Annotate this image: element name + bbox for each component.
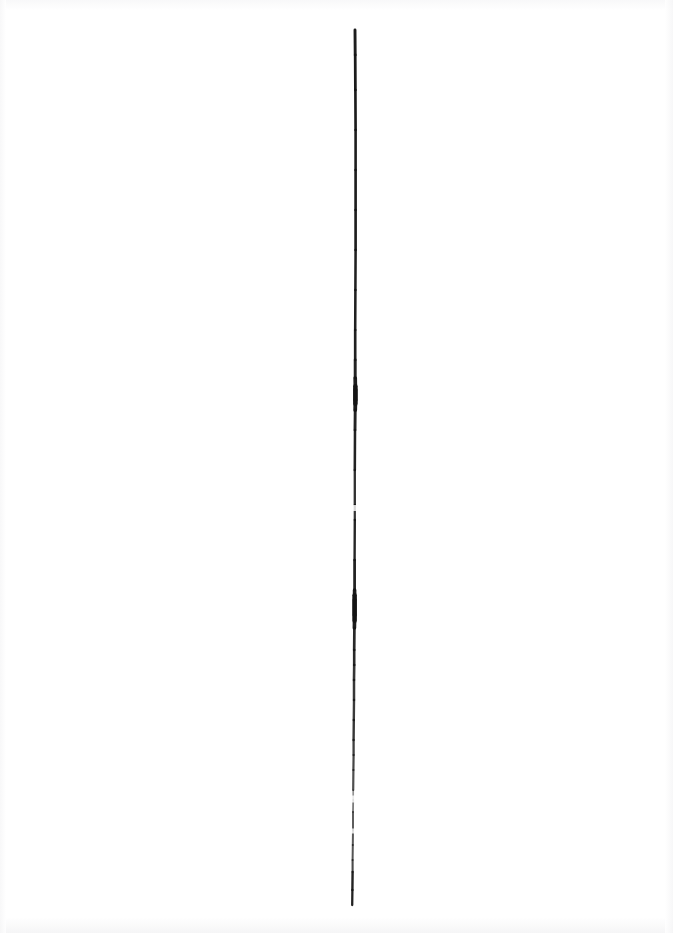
vertical-ink-stroke xyxy=(0,0,673,933)
break-low xyxy=(350,796,356,803)
blob-lower xyxy=(352,593,356,623)
break-mid xyxy=(352,505,358,511)
ink-layer xyxy=(0,0,673,933)
stroke-segments xyxy=(352,30,355,905)
blob-upper xyxy=(353,384,357,406)
break-lower xyxy=(350,829,356,834)
scanned-page xyxy=(0,0,673,933)
